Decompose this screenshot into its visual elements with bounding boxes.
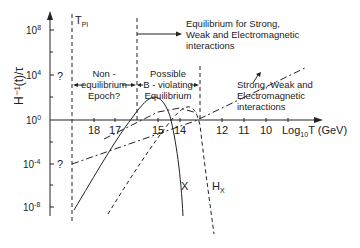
hx-curve-label: HX (212, 180, 225, 194)
question-mark-lower: ? (57, 158, 63, 170)
x-tick-label: 11 (238, 124, 249, 136)
y-tick-label: 108 (26, 24, 41, 36)
b-violating-label-2: B - violating (143, 79, 193, 90)
y-tick-label: 10-4 (23, 158, 40, 170)
strong-weak-em-annotation-2: Electromagnetic (237, 90, 305, 101)
arrow-left-icon (73, 83, 78, 87)
x-tick-label: 10 (260, 124, 272, 136)
x-boson-curve (74, 97, 183, 216)
equilibrium-label-2: Weak and Electromagnetic (186, 29, 300, 40)
x-curve-label: X (181, 180, 189, 192)
y-tick-label: 10-8 (23, 201, 40, 213)
y-tick-label: 100 (26, 114, 41, 126)
equilibrium-label-1: Equilibrium for Strong, (186, 18, 280, 29)
non-equilibrium-label-3: Epoch? (88, 90, 120, 101)
y-axis-label: H⁻¹(t)/τ (12, 67, 26, 105)
arrow-right-icon (194, 83, 199, 87)
b-violating-label-3: Equilibrium (145, 90, 192, 101)
equilibrium-diagram: H⁻¹(t)/τ 108 104 100 10-4 10-8 ? ? TPl 1… (0, 0, 360, 248)
non-equilibrium-label-1: Non - (92, 68, 115, 79)
x-tick-label: 14 (174, 124, 186, 136)
x-axis-label: Log10T (GeV) (282, 124, 347, 138)
arrow-right-icon (131, 83, 136, 87)
strong-weak-em-annotation-3: interactions (237, 101, 286, 112)
planck-temperature-label: TPl (75, 14, 88, 28)
x-tick-label: 18 (88, 124, 100, 136)
y-tick-label: 104 (26, 69, 41, 81)
x-tick-label: 15 (152, 124, 164, 136)
non-equilibrium-label-2: equilibrium (81, 79, 127, 90)
arrow-right-icon (176, 32, 182, 37)
question-mark-upper: ? (57, 70, 63, 82)
equilibrium-label-3: interactions (186, 40, 235, 51)
b-violating-label-1: Possible (150, 68, 186, 79)
arrow-left-icon (137, 83, 141, 87)
x-tick-label: 12 (216, 124, 228, 136)
x-tick-label: 17 (109, 124, 121, 136)
x-axis-arrow-icon (314, 117, 323, 123)
strong-weak-em-annotation-1: Strong, Weak and (237, 79, 313, 90)
y-axis-arrow-icon (47, 11, 53, 20)
